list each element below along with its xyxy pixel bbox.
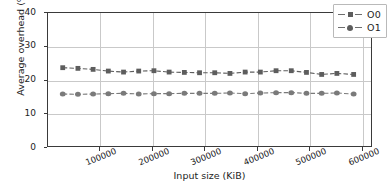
x-tick-mark — [152, 147, 153, 151]
gridline-horizontal — [48, 114, 371, 115]
x-tick-mark — [257, 147, 258, 151]
y-tick-label: 20 — [0, 75, 36, 84]
gridline-vertical — [258, 13, 259, 146]
x-tick-label: 500000 — [294, 146, 328, 167]
x-tick-mark — [99, 147, 100, 151]
chart-figure: Average overhead (%) Input size (KiB) O0… — [0, 0, 391, 185]
gridline-horizontal — [48, 81, 371, 82]
y-tick-mark — [44, 113, 48, 114]
gridline-horizontal — [48, 47, 371, 48]
y-tick-mark — [44, 80, 48, 81]
x-tick-label: 200000 — [137, 146, 171, 167]
gridline-vertical — [153, 13, 154, 146]
y-axis-label: Average overhead (%) — [15, 0, 26, 110]
legend-marker-diamond-icon — [338, 22, 362, 33]
x-tick-label: 100000 — [84, 146, 118, 167]
plot-area — [47, 12, 372, 147]
legend-label-o1: O1 — [367, 22, 381, 33]
legend-item-o1[interactable]: O1 — [338, 21, 381, 34]
x-tick-mark — [309, 147, 310, 151]
x-tick-label: 400000 — [242, 146, 276, 167]
y-tick-label: 30 — [0, 41, 36, 50]
y-tick-mark — [44, 46, 48, 47]
x-tick-label: 300000 — [189, 146, 223, 167]
x-tick-label: 600000 — [346, 146, 380, 167]
x-tick-mark — [204, 147, 205, 151]
y-tick-label: 40 — [0, 8, 36, 17]
gridline-vertical — [310, 13, 311, 146]
gridline-vertical — [100, 13, 101, 146]
y-tick-mark — [44, 147, 48, 148]
x-axis-label: Input size (KiB) — [47, 170, 372, 181]
x-tick-mark — [362, 147, 363, 151]
legend-label-o0: O0 — [367, 9, 381, 20]
legend-marker-square-icon — [338, 9, 362, 20]
y-tick-label: 0 — [0, 143, 36, 152]
y-tick-label: 10 — [0, 109, 36, 118]
gridline-vertical — [205, 13, 206, 146]
legend: O0 O1 — [333, 4, 387, 38]
y-tick-mark — [44, 12, 48, 13]
legend-item-o0[interactable]: O0 — [338, 8, 381, 21]
